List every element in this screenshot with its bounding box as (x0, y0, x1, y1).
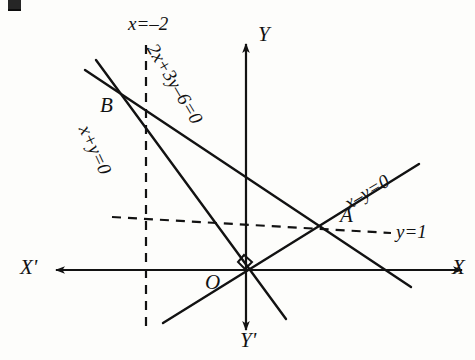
line-2x-plus-3y-minus-6-equals-0 (85, 70, 411, 287)
equation-label-y-equals-1: y=1 (396, 222, 427, 241)
diagram-canvas (0, 0, 475, 360)
point-label-origin: O (205, 272, 220, 293)
coordinate-geometry-figure: X' X Y Y' O B A x=–2 2x+3y–6=0 x+y=0 x–y… (0, 0, 475, 360)
point-label-b: B (100, 95, 113, 116)
axis-label-y-positive: Y (258, 24, 270, 45)
axis-label-x-positive: X (452, 257, 465, 278)
equation-label-x-equals-minus-2: x=–2 (128, 14, 168, 33)
axis-label-y-negative: Y' (240, 330, 256, 351)
axis-label-x-negative: X' (20, 257, 37, 278)
